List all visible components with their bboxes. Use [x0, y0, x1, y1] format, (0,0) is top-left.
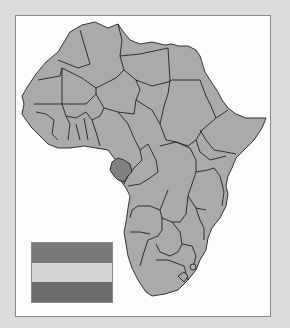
flag-stripe-top — [32, 243, 112, 263]
gabon-flag — [31, 242, 113, 303]
swaziland — [190, 264, 196, 270]
flag-stripe-bottom — [32, 282, 112, 302]
flag-stripe-middle — [32, 263, 112, 283]
